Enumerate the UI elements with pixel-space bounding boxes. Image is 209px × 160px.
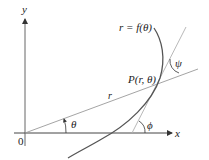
theta-label: θ bbox=[71, 119, 76, 130]
phi-label-bottom: ϕ bbox=[147, 120, 153, 131]
polar-tangent-diagram: y x 0 r = f(θ) P(r, θ) r θ ϕ ψ bbox=[0, 0, 209, 160]
curve-label: r = f(θ) bbox=[119, 22, 152, 33]
x-axis-label: x bbox=[175, 128, 180, 139]
theta-arc bbox=[64, 119, 66, 133]
y-axis-label: y bbox=[22, 4, 27, 15]
psi-label: ψ bbox=[175, 58, 182, 69]
origin-label: 0 bbox=[18, 136, 24, 147]
point-label: P(r, θ) bbox=[128, 74, 156, 85]
polar-curve bbox=[68, 28, 163, 158]
radius-label: r bbox=[108, 91, 112, 101]
radius-line bbox=[25, 69, 198, 133]
phi-arc-bottom bbox=[139, 121, 145, 133]
